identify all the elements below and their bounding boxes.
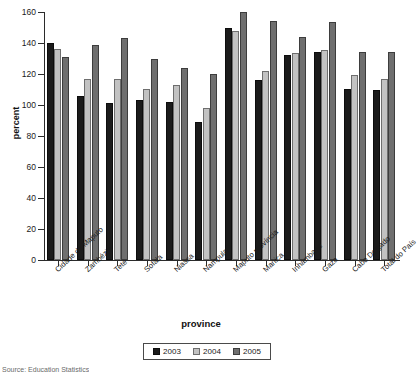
y-tick-label: 0 (0, 256, 36, 265)
bar-2005 (240, 12, 247, 260)
bar-2003 (255, 80, 262, 260)
bar-group (166, 12, 188, 260)
bar-2003 (225, 28, 232, 261)
bar-group (284, 12, 306, 260)
bar-2005 (181, 68, 188, 260)
bar-2004 (232, 31, 239, 260)
x-axis-title: province (0, 318, 402, 329)
legend-item: 2003 (153, 348, 181, 356)
y-tick-mark (38, 260, 44, 261)
bar-2005 (359, 52, 366, 260)
y-tick-label: 100 (0, 101, 36, 110)
y-tick-label: 80 (0, 132, 36, 141)
y-tick-label: 20 (0, 225, 36, 234)
bar-2003 (47, 43, 54, 260)
legend-label-2004: 2004 (203, 348, 221, 356)
bar-2003 (106, 103, 113, 260)
bar-group (225, 12, 247, 260)
plot-area (44, 12, 400, 260)
legend-swatch-2005 (233, 348, 240, 355)
bar-group (106, 12, 128, 260)
bar-group (255, 12, 277, 260)
bar-2003 (166, 102, 173, 260)
y-tick-label: 40 (0, 194, 36, 203)
y-tick-label: 60 (0, 163, 36, 172)
bar-2003 (195, 122, 202, 260)
bar-2005 (270, 21, 277, 260)
bar-group (136, 12, 158, 260)
bar-2004 (54, 49, 61, 260)
y-tick-label: 120 (0, 70, 36, 79)
legend-item: 2005 (233, 348, 261, 356)
y-tick-label: 140 (0, 39, 36, 48)
bar-2003 (373, 90, 380, 261)
bar-2004 (292, 53, 299, 260)
bar-2005 (210, 74, 217, 260)
bar-2003 (136, 100, 143, 260)
bar-group (77, 12, 99, 260)
bar-group (344, 12, 366, 260)
bar-2005 (329, 22, 336, 260)
bar-2005 (151, 59, 158, 260)
y-tick-label: 160 (0, 8, 36, 17)
bar-2003 (344, 89, 351, 260)
legend-swatch-2004 (193, 348, 200, 355)
legend: 2003 2004 2005 (143, 343, 271, 360)
bar-2004 (321, 50, 328, 260)
bar-2004 (351, 75, 358, 260)
bar-group (47, 12, 69, 260)
bar-2004 (203, 108, 210, 260)
bar-2003 (284, 55, 291, 260)
bar-group (195, 12, 217, 260)
bar-2004 (381, 79, 388, 260)
bar-2005 (388, 52, 395, 260)
legend-item: 2004 (193, 348, 221, 356)
bar-2004 (143, 89, 150, 260)
legend-label-2005: 2005 (243, 348, 261, 356)
bar-2004 (114, 79, 121, 260)
bar-2003 (314, 52, 321, 260)
source-note: Source: Education Statistics (2, 366, 89, 373)
bar-2005 (121, 38, 128, 260)
bar-group (314, 12, 336, 260)
legend-label-2003: 2003 (163, 348, 181, 356)
bar-2005 (299, 37, 306, 260)
bar-2004 (173, 85, 180, 260)
legend-swatch-2003 (153, 348, 160, 355)
bar-2005 (62, 57, 69, 260)
bar-2003 (77, 96, 84, 260)
bar-group (373, 12, 395, 260)
